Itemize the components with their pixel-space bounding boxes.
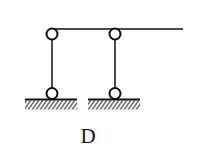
right-ground-support bbox=[88, 100, 140, 110]
figure-label: D bbox=[0, 124, 176, 149]
left-link bbox=[47, 29, 58, 100]
left-ground-support bbox=[25, 100, 77, 110]
right-bottom-hinge bbox=[110, 88, 121, 99]
left-top-hinge bbox=[47, 29, 58, 40]
right-top-hinge bbox=[110, 29, 121, 40]
right-link bbox=[110, 29, 121, 100]
left-bottom-hinge bbox=[47, 88, 58, 99]
